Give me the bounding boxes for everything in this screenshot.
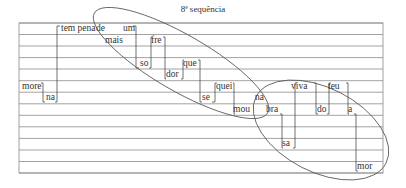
syllable: na	[46, 93, 55, 103]
syllable: sa	[282, 139, 290, 149]
syllable: se	[202, 93, 210, 103]
diagram-canvas: 8ª sequência morenatem penademaisumsofre…	[0, 0, 406, 188]
syllable-connector	[55, 26, 60, 102]
syllable: de	[96, 24, 105, 34]
syllable: more	[22, 82, 42, 92]
syllable: que	[183, 59, 197, 69]
syllable: mou	[233, 105, 250, 115]
syllable: quei	[216, 82, 232, 92]
syllable: na	[255, 93, 264, 103]
syllable: teu	[328, 82, 340, 92]
syllable: viva	[291, 82, 307, 92]
syllable: fre	[151, 36, 162, 46]
syllable: do	[317, 105, 327, 115]
syllable: so	[140, 59, 148, 69]
grouping-ellipse	[237, 59, 405, 188]
syllable: tem pena	[61, 24, 96, 34]
syllable: mais	[105, 36, 123, 46]
syllable: dor	[166, 70, 179, 80]
syllable: um	[123, 24, 135, 34]
staff-frame	[19, 23, 383, 173]
syllable: a	[348, 105, 352, 115]
syllable: bra	[266, 105, 278, 115]
syllable: mor	[357, 162, 372, 172]
